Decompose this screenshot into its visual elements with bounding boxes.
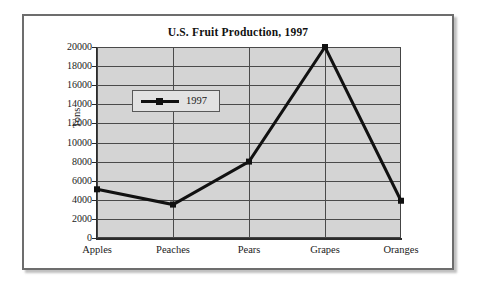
y-axis-tick-label: 8000 [46, 157, 92, 167]
y-axis-tick-label: 0 [46, 233, 92, 243]
y-axis-tick-mark [92, 143, 96, 144]
plot-area [97, 47, 401, 238]
x-axis-tick-label: Oranges [384, 244, 419, 255]
data-point-marker [246, 159, 252, 165]
legend-label: 1997 [186, 95, 207, 106]
chart-area: U.S. Fruit Production, 1997 Tons 0200040… [24, 16, 452, 268]
y-axis-tick-label: 10000 [46, 138, 92, 148]
y-axis-tick-mark [92, 47, 96, 48]
chart-title: U.S. Fruit Production, 1997 [24, 26, 452, 38]
y-axis-tick-mark [92, 104, 96, 105]
y-axis-tick-label: 20000 [46, 42, 92, 52]
data-series-1997 [97, 47, 401, 238]
y-axis-tick-mark [92, 123, 96, 124]
y-axis-tick-label: 2000 [46, 214, 92, 224]
series-line [97, 47, 401, 205]
y-axis-tick-label: 4000 [46, 195, 92, 205]
y-axis-tick-label: 14000 [46, 99, 92, 109]
x-axis-tick-label: Pears [238, 244, 261, 255]
x-axis-tick-label: Peaches [156, 244, 190, 255]
x-axis-tick-label: Apples [82, 244, 112, 255]
x-axis-line [96, 238, 402, 240]
data-point-marker [170, 202, 176, 208]
y-axis-tick-mark [92, 238, 96, 239]
y-axis-tick-label: 16000 [46, 80, 92, 90]
y-axis-tick-mark [92, 162, 96, 163]
y-axis-tick-mark [92, 181, 96, 182]
y-axis-tick-mark [92, 219, 96, 220]
y-axis-tick-label: 18000 [46, 61, 92, 71]
data-point-marker [398, 198, 404, 204]
legend: 1997 [132, 90, 220, 112]
y-axis-tick-mark [92, 85, 96, 86]
y-axis-tick-label: 6000 [46, 176, 92, 186]
y-axis-tick-mark [92, 66, 96, 67]
x-axis-tick-label: Grapes [310, 244, 340, 255]
y-axis-tick-labels: 0200040006000800010000120001400016000180… [44, 47, 92, 238]
y-axis-tick-mark [92, 200, 96, 201]
y-axis-tick-label: 12000 [46, 118, 92, 128]
figure-frame: U.S. Fruit Production, 1997 Tons 0200040… [22, 14, 454, 270]
data-point-marker [94, 186, 100, 192]
legend-marker-icon [156, 98, 163, 105]
data-point-marker [322, 44, 328, 50]
